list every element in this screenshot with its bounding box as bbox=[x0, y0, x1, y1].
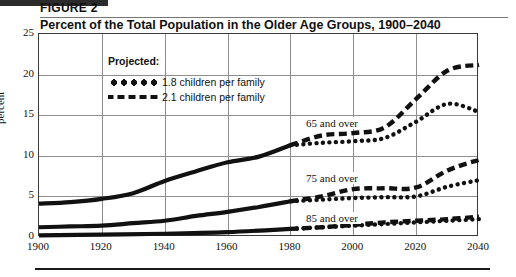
series-annotation: 75 and over bbox=[303, 172, 361, 184]
dotted-line-key bbox=[108, 78, 160, 87]
x-tick-2020: 2020 bbox=[390, 240, 440, 252]
y-tick-20: 20 bbox=[8, 67, 34, 79]
figure-title: Percent of the Total Population in the O… bbox=[40, 18, 441, 32]
series-annotation: 85 and over bbox=[303, 212, 361, 224]
legend-title: Projected: bbox=[108, 55, 265, 67]
y-tick-10: 10 bbox=[8, 148, 34, 160]
series-annotation: 65 and over bbox=[303, 117, 361, 129]
x-tick-2000: 2000 bbox=[327, 240, 377, 252]
chart-legend: Projected: 1.8 children per family 2.1 c… bbox=[108, 55, 265, 106]
legend-item-2-1-children: 2.1 children per family bbox=[108, 91, 265, 103]
series-line bbox=[39, 201, 290, 227]
x-tick-1980: 1980 bbox=[264, 240, 314, 252]
legend-label: 1.8 children per family bbox=[162, 76, 265, 88]
x-tick-1960: 1960 bbox=[202, 240, 252, 252]
x-tick-1900: 1900 bbox=[13, 240, 63, 252]
y-tick-25: 25 bbox=[8, 26, 34, 38]
figure-label: FIGURE 2 bbox=[40, 1, 98, 15]
series-line bbox=[39, 145, 290, 203]
x-tick-2040: 2040 bbox=[453, 240, 503, 252]
series-line bbox=[39, 229, 290, 236]
y-axis-title: percent bbox=[0, 92, 6, 124]
x-tick-1920: 1920 bbox=[76, 240, 126, 252]
x-tick-1940: 1940 bbox=[139, 240, 189, 252]
y-tick-15: 15 bbox=[8, 107, 34, 119]
dashed-line-key bbox=[108, 93, 160, 102]
y-tick-5: 5 bbox=[8, 188, 34, 200]
legend-item-1-8-children: 1.8 children per family bbox=[108, 76, 265, 88]
figure-bottom-rule bbox=[35, 268, 490, 270]
legend-label: 2.1 children per family bbox=[162, 91, 265, 103]
